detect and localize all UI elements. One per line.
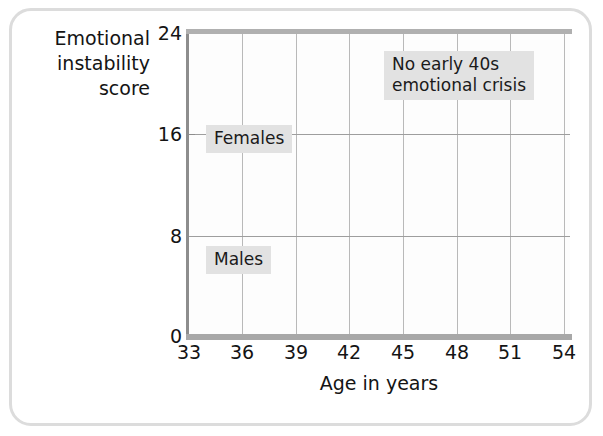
x-tick-54: 54 [542,341,586,363]
gridline-x-39 [296,33,297,337]
annotation-no-early-40s-crisis: No early 40s emotional crisis [384,51,534,100]
x-tick-45: 45 [381,341,425,363]
x-tick-39: 39 [274,341,318,363]
x-axis-title: Age in years [188,372,570,394]
gridline-x-54 [564,33,565,337]
series-label-males: Males [206,246,271,274]
x-tick-42: 42 [327,341,371,363]
figure-root: Emotional instability score 24 16 8 0 Fe… [0,0,603,436]
y-tick-16: 16 [136,123,182,145]
gridline-y-8 [188,236,570,237]
x-tick-36: 36 [220,341,264,363]
x-tick-51: 51 [488,341,532,363]
gridline-x-42 [349,33,350,337]
y-axis-line [186,33,189,337]
plot-area: Females Males No early 40s emotional cri… [188,33,570,337]
y-axis-tick-labels: 24 16 8 0 [130,33,182,337]
x-tick-48: 48 [435,341,479,363]
x-axis-tick-labels: 33 36 39 42 45 48 51 54 [188,341,570,367]
y-tickmark-16 [186,134,195,135]
series-label-females: Females [206,125,292,153]
x-axis-line [186,334,572,340]
x-tick-33: 33 [167,341,211,363]
y-tick-24: 24 [136,22,182,44]
y-tick-8: 8 [136,225,182,247]
plot-top-border [186,29,572,34]
gridline-x-36 [242,33,243,337]
